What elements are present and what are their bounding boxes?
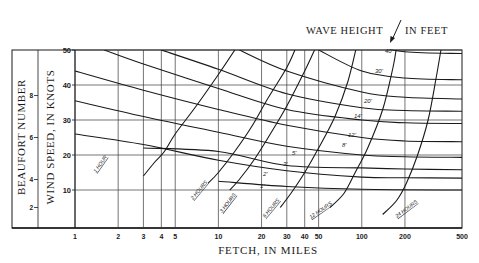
wave-height-curve [75, 101, 462, 158]
x-tick-label: 30 [283, 233, 291, 240]
wave-forecast-chart: 12345102030405010020050010203040502468 W… [0, 0, 479, 263]
wave-height-label: 8' [342, 142, 347, 148]
wave-height-curve [75, 71, 462, 142]
x-tick-label: 200 [399, 233, 411, 240]
duration-label: 3 HOURS [218, 191, 237, 213]
wave-height-label: 2' [262, 171, 268, 177]
duration-label: 12 HOURS [308, 200, 333, 220]
x-axis-label: FETCH, IN MILES [218, 244, 318, 256]
duration-curve [143, 47, 237, 177]
wave-height-label: 30' [375, 68, 384, 74]
wave-height-curve [143, 148, 462, 170]
beaufort-tick-label: 6 [29, 134, 33, 141]
beaufort-tick-label: 4 [29, 176, 33, 183]
x-tick-label: 50 [315, 233, 323, 240]
wave-height-curve [362, 43, 462, 54]
wave-height-title-left: WAVE HEIGHT [306, 25, 383, 36]
x-tick-label: 5 [173, 233, 177, 240]
y-axis-label: WIND SPEED, IN KNOTS [44, 70, 56, 205]
y-tick-label: 40 [63, 81, 71, 90]
x-tick-label: 4 [159, 233, 163, 240]
wave-height-title-right: IN FEET [405, 25, 448, 36]
x-tick-label: 3 [141, 233, 145, 240]
duration-label: 6 HOURS [261, 197, 281, 219]
duration-curve [330, 47, 397, 208]
x-tick-label: 1 [73, 233, 77, 240]
beaufort-tick-label: 8 [29, 92, 33, 99]
x-tick-label: 2 [116, 233, 120, 240]
duration-label: 1 HOUR [92, 154, 108, 174]
y-tick-label: 30 [63, 116, 71, 125]
wave-height-label: 1' [260, 183, 265, 189]
y-tick-label: 50 [63, 46, 71, 55]
y-tick-label: 20 [63, 151, 71, 160]
duration-label: 24 HOURS [393, 198, 419, 219]
wave-height-label: 14' [354, 113, 363, 119]
x-tick-label: 10 [214, 233, 222, 240]
beaufort-tick-label: 2 [29, 204, 33, 211]
wave-height-curve [218, 181, 462, 190]
x-tick-label: 500 [456, 233, 468, 240]
wave-height-curves [75, 43, 462, 190]
grid-lines [75, 50, 462, 228]
wave-height-label: 20' [363, 98, 373, 104]
wave-height-arrow-icon [390, 20, 401, 43]
x-tick-label: 20 [258, 233, 266, 240]
wave-height-label: 12' [348, 132, 357, 138]
wave-height-curve [239, 50, 462, 99]
beaufort-axis-label: BEAUFORT NUMBER [15, 79, 27, 195]
wave-height-label: 40' [385, 48, 394, 54]
y-tick-label: 10 [63, 186, 71, 195]
wave-height-curve [161, 50, 462, 111]
x-tick-label: 40 [301, 233, 309, 240]
x-tick-label: 100 [356, 233, 368, 240]
